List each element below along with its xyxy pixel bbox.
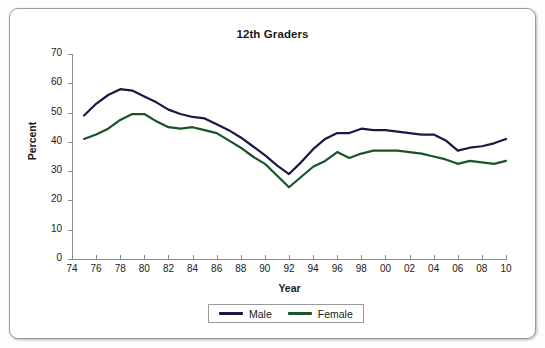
legend-swatch-male xyxy=(219,312,243,315)
x-tick-label: 96 xyxy=(324,263,350,274)
x-tick-label: 82 xyxy=(155,263,181,274)
x-tick-label: 06 xyxy=(445,263,471,274)
x-tick-label: 74 xyxy=(59,263,85,274)
y-tick-label: 0 xyxy=(28,252,62,263)
series-lines xyxy=(72,54,506,259)
x-tick-label: 94 xyxy=(300,263,326,274)
y-tick-mark xyxy=(68,259,72,260)
x-tick-label: 86 xyxy=(204,263,230,274)
x-tick-label: 04 xyxy=(421,263,447,274)
x-tick-label: 78 xyxy=(107,263,133,274)
x-tick-label: 92 xyxy=(276,263,302,274)
chart-figure: 12th Graders Percent Year 01020304050607… xyxy=(0,0,545,348)
y-tick-label: 70 xyxy=(28,47,62,58)
x-axis-line xyxy=(72,259,507,260)
chart-legend: MaleFemale xyxy=(208,304,364,323)
y-tick-label: 50 xyxy=(28,106,62,117)
y-tick-label: 10 xyxy=(28,223,62,234)
x-tick-label: 90 xyxy=(252,263,278,274)
x-tick-label: 80 xyxy=(131,263,157,274)
y-tick-label: 20 xyxy=(28,193,62,204)
x-tick-label: 76 xyxy=(83,263,109,274)
y-tick-label: 60 xyxy=(28,76,62,87)
x-axis-label: Year xyxy=(72,282,507,294)
series-line-female xyxy=(84,114,506,187)
plot-area xyxy=(72,54,506,259)
x-tick-label: 84 xyxy=(180,263,206,274)
legend-entry-male: Male xyxy=(219,308,272,320)
x-tick-label: 02 xyxy=(397,263,423,274)
series-line-male xyxy=(84,89,506,174)
chart-title: 12th Graders xyxy=(0,28,545,40)
x-tick-mark xyxy=(506,255,507,259)
x-tick-label: 00 xyxy=(372,263,398,274)
legend-entry-female: Female xyxy=(288,308,353,320)
x-tick-label: 10 xyxy=(493,263,519,274)
y-tick-label: 40 xyxy=(28,135,62,146)
y-tick-label: 30 xyxy=(28,164,62,175)
legend-label: Female xyxy=(318,308,353,320)
x-tick-label: 08 xyxy=(469,263,495,274)
legend-swatch-female xyxy=(288,312,312,315)
legend-label: Male xyxy=(249,308,272,320)
x-tick-label: 88 xyxy=(228,263,254,274)
x-tick-label: 98 xyxy=(348,263,374,274)
